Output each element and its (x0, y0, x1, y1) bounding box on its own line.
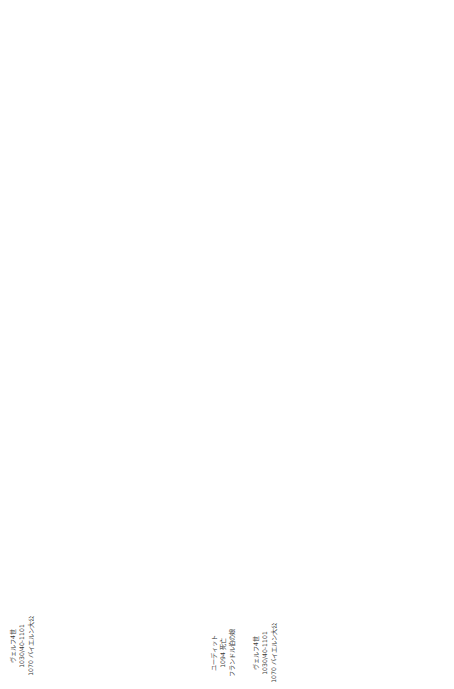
name: ヴェルフ4世 (8, 611, 17, 681)
name: ヴェルフ4世 (251, 622, 260, 684)
name: ユーディット (209, 622, 218, 684)
person-welf4: ヴェルフ4世 1030/40-1101 1070 バイエルン大公 (8, 611, 36, 681)
title: 1070 バイエルン大公 (26, 611, 35, 681)
dates: 1030/40-1101 (260, 622, 269, 684)
person-judith-flanders-block: ユーディット 1094 死亡 フランドル伯の娘 (209, 622, 237, 684)
title: 1070 バイエルン大公 (269, 622, 278, 684)
dates: 1094 死亡 (218, 622, 227, 684)
dates: 1030/40-1101 (17, 611, 26, 681)
genealogy-chart: ヴェルフ4世 1030/40-1101 1070 バイエルン大公 ヴェルフ4世 … (0, 0, 454, 689)
person-welf4-block: ヴェルフ4世 1030/40-1101 1070 バイエルン大公 (251, 622, 279, 684)
title: フランドル伯の娘 (227, 622, 236, 684)
